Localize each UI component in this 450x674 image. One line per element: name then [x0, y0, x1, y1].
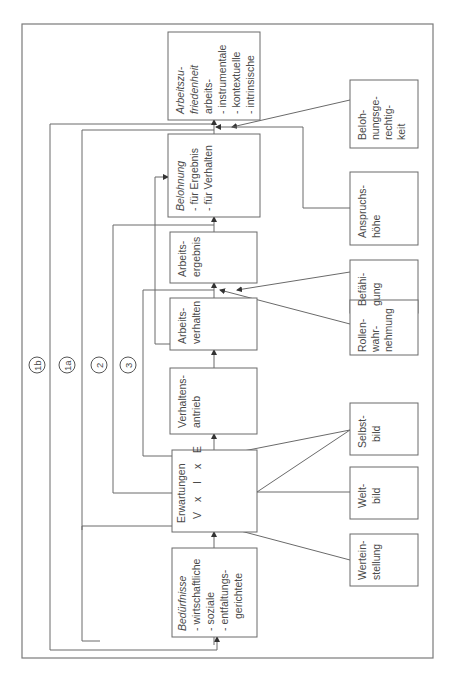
label-arbeitszufriedenheit-line: - intrinsische	[244, 55, 256, 114]
label-beduerfnisse-line: - entfaltungs-	[218, 569, 230, 631]
loop-label-1a: 1a	[59, 357, 75, 373]
motivation-process-diagram: Arbeitszu- friedenheit arbeits- - instru…	[0, 0, 450, 674]
label-befaehigung: gung	[370, 282, 382, 306]
label-arbeitsverhalten: verhalten	[190, 301, 202, 344]
label-befaehigung: Befähi-	[356, 272, 368, 306]
formula-x: x	[191, 463, 203, 469]
label-beduerfnisse-line: gerichtete	[232, 573, 244, 619]
label-arbeitsergebnis: Arbeits-	[176, 240, 188, 277]
label-verhaltensantrieb: antrieb	[190, 396, 202, 428]
loop-label-1a-text: 1a	[62, 360, 73, 371]
label-rollenwahrnehmung: Rollen-	[356, 318, 368, 352]
loop-1a-line	[82, 526, 184, 530]
label-beduerfnisse-line: - soziale	[204, 592, 216, 631]
label-arbeitszufriedenheit-line: - kontextuelle	[230, 51, 242, 114]
label-belohnungsgerechtigkeit: nungsge-	[369, 96, 381, 140]
formula-x: x	[191, 496, 203, 502]
label-belohnungsgerechtigkeit: Beloh-	[356, 109, 368, 140]
label-belohnungsgerechtigkeit: keit	[395, 124, 407, 140]
loop-label-1b-text: 1b	[32, 360, 43, 371]
label-erwartungen-title: Erwartungen	[175, 463, 187, 523]
label-arbeitszufriedenheit-line: arbeits-	[202, 78, 214, 114]
loop-label-2-text: 2	[94, 363, 105, 368]
formula-i: I	[191, 481, 203, 484]
label-arbeitsverhalten: Arbeits-	[176, 307, 188, 344]
label-belohnung-line: - für Ergebnis	[188, 148, 200, 211]
label-arbeitsergebnis: ergebnis	[190, 237, 202, 277]
label-rollenwahrnehmung: nehmung	[382, 308, 394, 352]
label-arbeitszufriedenheit-title2: friedenheit	[188, 64, 200, 114]
label-verhaltensantrieb: Verhaltens-	[176, 374, 188, 428]
label-anspruchshoehe: Anspruchs-	[356, 184, 368, 238]
label-beduerfnisse-line: - wirtschaftliche	[190, 558, 202, 631]
label-selbstbild: Selbst-	[356, 415, 368, 448]
label-arbeitszufriedenheit-line: - instrumentale	[216, 44, 228, 114]
label-weltbild: Welt-	[356, 483, 368, 508]
loop-label-3-text: 3	[123, 363, 134, 368]
label-belohnungsgerechtigkeit: rechtig-	[382, 104, 394, 140]
formula-v: V	[191, 512, 203, 519]
label-belohnung-line: - für Verhalten	[202, 145, 214, 211]
label-belohnung-title: Belohnung	[174, 161, 186, 211]
label-arbeitszufriedenheit-title: Arbeitszu-	[174, 66, 186, 115]
label-rollenwahrnehmung: wahr-	[369, 325, 381, 353]
label-werteinstellung: stellung	[370, 544, 382, 580]
loop-label-1b: 1b	[29, 357, 45, 373]
label-anspruchshoehe: höhe	[370, 214, 382, 238]
label-beduerfnisse-title: Bedürfnisse	[176, 575, 188, 631]
loop-label-3: 3	[120, 357, 136, 373]
label-selbstbild: bild	[370, 425, 382, 442]
label-weltbild: bild	[370, 487, 382, 504]
label-werteinstellung: Wertein-	[356, 540, 368, 580]
formula-e: E	[191, 446, 203, 453]
loop-label-2: 2	[91, 357, 107, 373]
